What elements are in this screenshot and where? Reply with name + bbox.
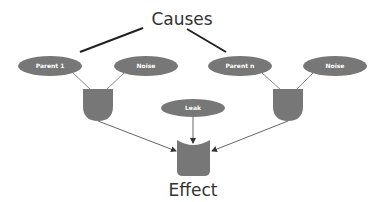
node-parent-n: Parent n <box>208 56 272 76</box>
causes-title: Causes <box>151 9 212 29</box>
node-leak: Leak <box>161 99 225 117</box>
noise2-label: Noise <box>326 62 345 69</box>
arrow-gate1-effect <box>98 121 176 151</box>
noise1-label: Noise <box>137 62 156 69</box>
edge-parentn-gate2 <box>262 73 281 90</box>
gate-2-shape <box>273 89 303 121</box>
parentn-label: Parent n <box>226 62 255 69</box>
effect-label: Effect <box>169 180 218 200</box>
node-noise-2: Noise <box>303 56 367 76</box>
parent1-label: Parent 1 <box>36 62 65 69</box>
node-parent-1: Parent 1 <box>18 56 82 76</box>
edge-noise2-gate2 <box>296 73 313 90</box>
edge-parent1-gate1 <box>73 73 91 90</box>
arrow-gate2-effect <box>212 121 288 151</box>
leak-label: Leak <box>185 104 202 111</box>
causes-line-left <box>80 28 143 52</box>
edge-noise1-gate1 <box>106 73 124 90</box>
node-noise-1: Noise <box>114 56 178 76</box>
effect-node-shape <box>177 140 210 176</box>
causes-line-right <box>187 29 226 52</box>
noisy-or-diagram: Causes Parent 1 Noise Parent n Noise Lea… <box>0 0 386 202</box>
gate-1-shape <box>83 89 113 121</box>
